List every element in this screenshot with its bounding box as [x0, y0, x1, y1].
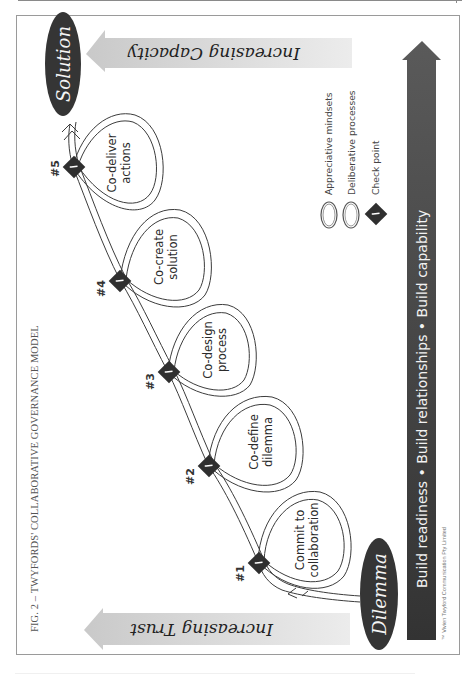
legend-label-appreciative: Appreciative mindsets — [323, 92, 334, 195]
stage-labels: Co-deliver actions Co-create solution Co… — [105, 133, 321, 577]
stage-1-label-line2: collaboration — [307, 503, 321, 578]
increasing-capacity-label: Increasing Capacity — [127, 44, 301, 64]
copyright-notice: ™ Vivien Twyford Communication Pty Limit… — [441, 527, 447, 640]
governance-model-diagram: FIG. 2 – TWYFORDS' COLLABORATIVE GOVERNA… — [0, 0, 476, 679]
stage-1-label-line1: Commit to — [293, 510, 307, 570]
checkpoint-5-number: #5 — [49, 160, 62, 177]
increasing-capacity-band: Increasing Capacity — [86, 30, 352, 72]
checkpoint-4-icon — [109, 270, 132, 293]
stage-3-label-line1: Co-design — [201, 321, 215, 379]
solution-label: Solution — [53, 26, 74, 102]
stage-2-label-line2: dilemma — [261, 417, 275, 467]
stage-5-label-line2: actions — [119, 142, 133, 183]
checkpoint-5-icon — [63, 156, 86, 179]
checkpoint-1-icon — [248, 552, 271, 575]
stage-4-label-line2: solution — [166, 234, 180, 280]
build-progress-label: Build readiness • Build relationships • … — [414, 210, 430, 588]
build-progress-arrow: Build readiness • Build relationships • … — [402, 41, 441, 640]
stage-4-label-line1: Co-create — [152, 229, 166, 285]
legend-label-deliberative: Deliberative processes — [346, 90, 357, 195]
dilemma-label: Dilemma — [369, 553, 390, 635]
increasing-trust-label: Increasing Trust — [130, 620, 274, 640]
stage-3-label-line2: process — [215, 328, 229, 372]
appreciative-loop-icon — [321, 202, 337, 228]
checkpoint-1-number: #1 — [234, 565, 247, 582]
legend: Appreciative mindsets Deliberative proce… — [321, 90, 387, 228]
checkpoint-icon — [365, 203, 388, 226]
deliberative-loop-icon — [343, 202, 359, 228]
legend-label-checkpoint: Check point — [370, 140, 381, 195]
increasing-trust-band: Increasing Trust — [84, 608, 350, 650]
checkpoint-3-number: #3 — [144, 373, 157, 390]
checkpoint-4-number: #4 — [95, 280, 108, 297]
stage-5-label-line1: Co-deliver — [105, 133, 119, 192]
solution-endpoint: Solution — [45, 12, 81, 116]
checkpoint-2-number: #2 — [184, 468, 197, 485]
checkpoint-2-icon — [198, 455, 221, 478]
stage-2-label-line1: Co-define — [247, 414, 261, 469]
dilemma-endpoint: Dilemma — [360, 538, 398, 650]
figure-caption: FIG. 2 – TWYFORDS' COLLABORATIVE GOVERNA… — [29, 325, 40, 632]
